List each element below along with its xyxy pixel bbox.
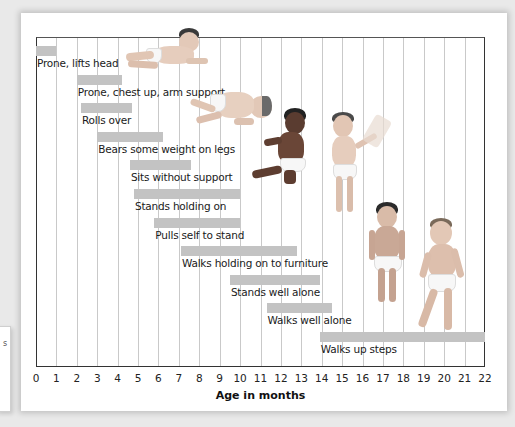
milestone-label: Stands holding on [135, 200, 226, 212]
toddler-standing-alone-illustration [368, 202, 406, 304]
x-tick-label: 9 [216, 372, 223, 384]
toddler-walking-illustration [414, 218, 470, 334]
x-tick-label: 6 [155, 372, 162, 384]
milestone-bar [130, 160, 191, 170]
milestone-bar [134, 189, 240, 199]
x-tick-label: 2 [73, 372, 80, 384]
x-axis-label: Age in months [36, 389, 485, 402]
baby-sitting-illustration [250, 108, 310, 186]
adjacent-panel-glyph: s [3, 339, 7, 348]
baby-standing-holding-on-illustration [328, 112, 392, 216]
milestone-label: Rolls over [82, 114, 131, 126]
milestone-label: Sits without support [131, 171, 233, 183]
x-tick-label: 0 [33, 372, 40, 384]
x-tick-label: 20 [437, 372, 450, 384]
milestone-label: Prone, lifts head [37, 57, 119, 69]
x-tick-label: 11 [254, 372, 267, 384]
milestone-label: Walks up steps [321, 343, 397, 355]
milestone-bar [97, 132, 162, 142]
x-tick-label: 17 [376, 372, 389, 384]
x-tick-label: 22 [478, 372, 491, 384]
x-tick-label: 19 [417, 372, 430, 384]
x-tick-label: 3 [94, 372, 101, 384]
x-tick-label: 1 [53, 372, 60, 384]
x-tick-label: 18 [397, 372, 410, 384]
x-tick-label: 10 [233, 372, 246, 384]
milestone-bar [154, 218, 240, 228]
milestone-bar [267, 303, 332, 313]
adjacent-panel-edge: s [0, 326, 11, 412]
x-tick-label: 12 [274, 372, 287, 384]
x-tick-label: 4 [114, 372, 121, 384]
milestone-label: Walks holding on to furniture [182, 257, 328, 269]
x-tick-label: 15 [335, 372, 348, 384]
x-tick-label: 7 [176, 372, 183, 384]
milestone-bar [36, 46, 56, 56]
x-tick-label: 21 [458, 372, 471, 384]
milestone-label: Walks well alone [268, 314, 352, 326]
milestone-label: Stands well alone [231, 286, 320, 298]
gridline [56, 38, 57, 366]
x-tick-label: 14 [315, 372, 328, 384]
x-tick-label: 16 [356, 372, 369, 384]
x-tick-label: 8 [196, 372, 203, 384]
milestone-label: Bears some weight on legs [98, 143, 235, 155]
baby-prone-lifting-head-illustration [124, 28, 214, 76]
milestone-bar [81, 103, 132, 113]
milestone-label: Pulls self to stand [155, 229, 244, 241]
milestone-bar [181, 246, 297, 256]
x-tick-label: 13 [295, 372, 308, 384]
x-tick-label: 5 [135, 372, 142, 384]
milestone-bar [77, 75, 122, 85]
milestone-bar [230, 275, 320, 285]
